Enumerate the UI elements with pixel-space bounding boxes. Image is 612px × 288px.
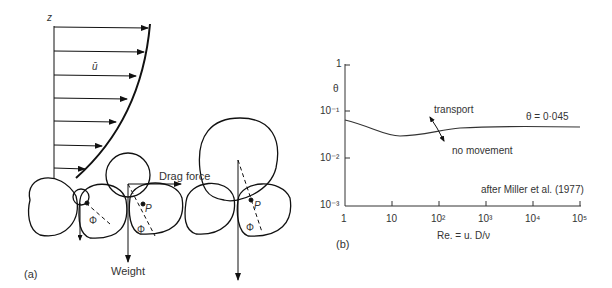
transport-arrow — [430, 117, 437, 128]
z-axis-label: z — [47, 12, 52, 23]
angle-label-3: Φ — [246, 222, 254, 233]
source-annotation: after Miller et al. (1977) — [481, 184, 584, 195]
no-movement-annotation: no movement — [452, 145, 513, 156]
drag-force-label: Drag force — [159, 170, 210, 182]
panel-b-label: (b) — [336, 238, 349, 250]
angle-label-2: Φ — [137, 224, 145, 235]
x-axis-label: Re. = u. D/ν — [437, 230, 490, 241]
contact-point-label: P — [145, 203, 152, 214]
x-tick-3: 10² — [431, 213, 445, 224]
contact-point-label-2: P — [254, 200, 261, 211]
x-tick-4: 10³ — [478, 213, 492, 224]
y-tick-4: 10⁻³ — [320, 199, 339, 210]
threshold-annotation: θ = 0·045 — [526, 111, 569, 122]
weight-label: Weight — [111, 265, 145, 277]
threshold-curve — [345, 120, 580, 136]
y-axis-label: θ — [333, 83, 339, 94]
velocity-label: ū — [92, 61, 98, 72]
x-tick-5: 10⁴ — [525, 213, 540, 224]
y-tick-1: 1 — [336, 58, 342, 69]
y-tick-3: 10⁻² — [320, 152, 339, 163]
panel-a-label: (a) — [24, 268, 37, 280]
x-tick-2: 10 — [386, 213, 397, 224]
x-tick-1: 1 — [341, 213, 347, 224]
y-tick-2: 10⁻¹ — [320, 105, 339, 116]
transport-annotation: transport — [434, 104, 473, 115]
x-tick-6: 10⁵ — [572, 213, 587, 224]
figure-canvas — [0, 0, 612, 288]
angle-label: Φ — [89, 215, 97, 226]
